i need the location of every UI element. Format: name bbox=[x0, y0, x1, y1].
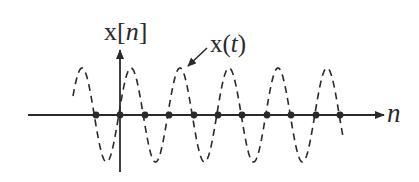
x-axis-label: n bbox=[387, 98, 401, 128]
sample-point bbox=[93, 112, 100, 119]
sample-point bbox=[191, 112, 198, 119]
curve-pointer-arrow bbox=[188, 48, 207, 66]
sample-point bbox=[142, 112, 149, 119]
y-axis-label: x[n] bbox=[104, 17, 147, 46]
sample-point bbox=[288, 112, 295, 119]
sample-point bbox=[337, 112, 344, 119]
curve-label: x(t) bbox=[210, 30, 246, 58]
sample-point bbox=[166, 112, 173, 119]
sample-point bbox=[117, 112, 124, 119]
sample-point bbox=[239, 112, 246, 119]
sample-point bbox=[215, 112, 222, 119]
sample-point bbox=[264, 112, 271, 119]
sampling-diagram: x[n] x(t) n bbox=[0, 0, 419, 182]
sample-point bbox=[313, 112, 320, 119]
